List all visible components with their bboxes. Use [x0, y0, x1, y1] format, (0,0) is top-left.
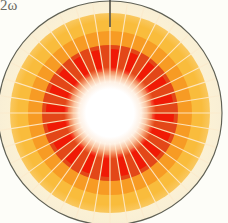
- rim-shading: [0, 1, 222, 223]
- corner-label: 2ω: [0, 0, 17, 12]
- radial-sunburst-figure: 2ω: [0, 0, 228, 223]
- polar-diagram: [0, 0, 228, 223]
